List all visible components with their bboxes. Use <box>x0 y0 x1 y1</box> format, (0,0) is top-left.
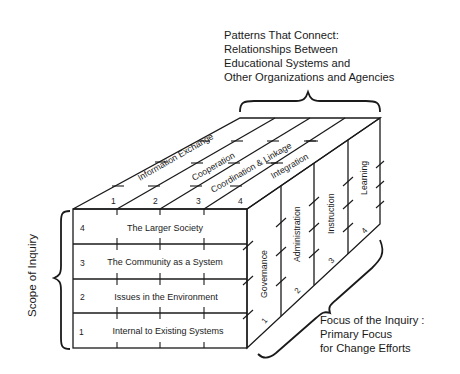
row-label: The Larger Society <box>127 223 204 233</box>
strip-number: 1 <box>111 196 116 206</box>
top-caption-line: Patterns That Connect: <box>224 28 394 42</box>
bottom-caption-line: Primary Focus <box>320 327 424 341</box>
column-label: Learning <box>359 161 369 195</box>
row-label: Internal to Existing Systems <box>112 326 224 336</box>
row-label: The Community as a System <box>107 257 223 267</box>
row-number: 2 <box>80 292 85 302</box>
column-number: 3 <box>327 256 337 266</box>
bottom-caption-line: for Change Efforts <box>320 341 424 355</box>
bottom-right-caption: Focus of the Inquiry : Primary Focus for… <box>320 313 424 355</box>
left-brace <box>54 211 70 349</box>
column-number: 4 <box>360 226 370 236</box>
row-label: Issues in the Environment <box>114 292 218 302</box>
top-caption-line: Other Organizations and Agencies <box>224 70 394 84</box>
top-caption-line: Educational Systems and <box>224 56 394 70</box>
bottom-caption-line: Focus of the Inquiry : <box>320 313 424 327</box>
row-number: 3 <box>80 258 85 268</box>
top-caption: Patterns That Connect: Relationships Bet… <box>224 28 394 84</box>
row-number: 4 <box>80 223 85 233</box>
strip-number: 2 <box>153 196 158 206</box>
column-number: 1 <box>260 316 270 326</box>
top-caption-line: Relationships Between <box>224 42 394 56</box>
row-number: 1 <box>79 327 84 337</box>
column-label: Governance <box>259 250 269 298</box>
front-face-labels: 4 The Larger Society 3 The Community as … <box>79 223 224 337</box>
column-label: Administration <box>292 206 302 262</box>
column-label: Instruction <box>326 193 336 234</box>
top-brace <box>240 92 380 112</box>
scope-of-inquiry-label: Scope of Inquiry <box>26 234 38 317</box>
strip-number: 4 <box>238 196 243 206</box>
column-number: 2 <box>293 286 303 296</box>
strip-number: 3 <box>196 196 201 206</box>
